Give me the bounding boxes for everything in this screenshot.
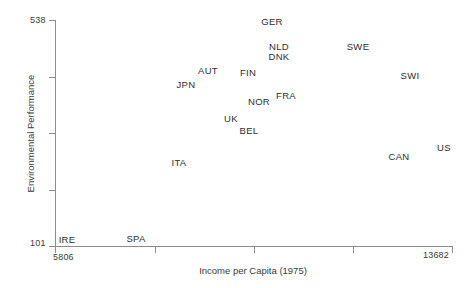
data-point-aut: AUT [198, 65, 218, 76]
data-point-ita: ITA [172, 157, 187, 168]
data-point-swe: SWE [347, 41, 370, 52]
y-tick-1 [49, 77, 55, 78]
data-point-jpn: JPN [177, 79, 196, 90]
data-point-dnk: DNK [269, 51, 290, 62]
x-tick-1 [155, 247, 156, 253]
y-axis-max-label: 538 [30, 15, 46, 25]
y-tick-0 [49, 20, 55, 21]
x-axis-title: Income per Capita (1975) [0, 265, 466, 276]
data-point-swi: SWI [401, 70, 420, 81]
y-axis-title: Environmental Performance [25, 54, 36, 214]
data-point-fin: FIN [240, 67, 256, 78]
y-axis-line [55, 20, 56, 247]
data-point-fra: FRA [276, 90, 296, 101]
data-point-ger: GER [261, 16, 283, 27]
y-axis-min-label: 101 [30, 238, 46, 248]
data-point-us: US [437, 142, 451, 153]
data-point-spa: SPA [126, 233, 145, 244]
data-point-can: CAN [389, 151, 410, 162]
x-tick-3 [353, 247, 354, 253]
data-point-nor: NOR [248, 96, 270, 107]
y-tick-2 [49, 133, 55, 134]
x-axis-min-label: 5806 [53, 252, 74, 262]
y-tick-3 [49, 190, 55, 191]
x-axis-max-label: 13682 [423, 250, 449, 260]
data-point-bel: BEL [240, 125, 259, 136]
data-point-uk: UK [224, 113, 238, 124]
x-tick-2 [254, 247, 255, 253]
data-point-ire: IRE [59, 234, 76, 245]
scatter-plot: 538 101 5806 13682 Income per Capita (19… [0, 0, 466, 288]
x-tick-4 [452, 247, 453, 253]
